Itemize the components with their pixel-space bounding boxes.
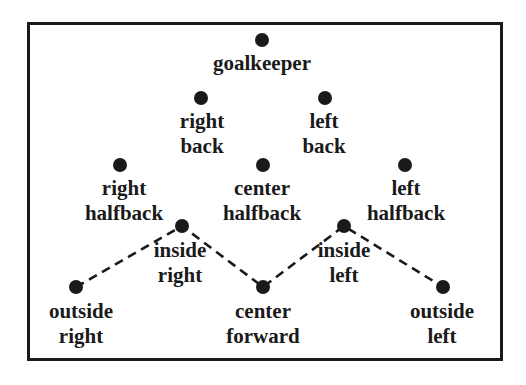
forward-line-dashed	[76, 226, 443, 287]
right-halfback-dot	[113, 158, 127, 172]
inside-right-dot	[175, 219, 189, 233]
outside-right-label: outsideright	[49, 299, 113, 349]
outside-left-label-line: outside	[410, 299, 474, 324]
outside-right-dot	[69, 280, 83, 294]
left-back-label-line: back	[302, 134, 345, 159]
right-halfback-label: righthalfback	[85, 176, 163, 226]
center-forward-label: centerforward	[226, 299, 299, 349]
center-halfback-dot	[256, 158, 270, 172]
soccer-formation-diagram: goalkeeperrightbackleftbackrighthalfback…	[0, 0, 526, 385]
outside-right-label-line: right	[49, 324, 113, 349]
right-back-label-line: right	[180, 109, 224, 134]
right-halfback-label-line: halfback	[85, 201, 163, 226]
center-halfback-label: centerhalfback	[223, 176, 301, 226]
goalkeeper-label: goalkeeper	[213, 51, 311, 76]
right-halfback-label-line: right	[85, 176, 163, 201]
left-halfback-label: lefthalfback	[367, 176, 445, 226]
left-back-label: leftback	[302, 109, 345, 159]
inside-left-label-line: inside	[318, 238, 371, 263]
center-halfback-label-line: halfback	[223, 201, 301, 226]
inside-left-label: insideleft	[318, 238, 371, 288]
outside-left-label: outsideleft	[410, 299, 474, 349]
inside-right-label-line: right	[154, 263, 207, 288]
inside-left-label-line: left	[318, 263, 371, 288]
left-back-label-line: left	[302, 109, 345, 134]
left-halfback-dot	[398, 158, 412, 172]
outside-left-dot	[436, 280, 450, 294]
right-back-label: rightback	[180, 109, 224, 159]
right-back-label-line: back	[180, 134, 224, 159]
center-forward-label-line: forward	[226, 324, 299, 349]
left-halfback-label-line: halfback	[367, 201, 445, 226]
left-back-dot	[318, 91, 332, 105]
left-halfback-label-line: left	[367, 176, 445, 201]
right-back-dot	[194, 91, 208, 105]
goalkeeper-dot	[255, 33, 269, 47]
outside-right-label-line: outside	[49, 299, 113, 324]
inside-right-label-line: inside	[154, 238, 207, 263]
center-halfback-label-line: center	[223, 176, 301, 201]
center-forward-label-line: center	[226, 299, 299, 324]
inside-left-dot	[337, 219, 351, 233]
center-forward-dot	[256, 280, 270, 294]
goalkeeper-label-line: goalkeeper	[213, 51, 311, 76]
outside-left-label-line: left	[410, 324, 474, 349]
inside-right-label: insideright	[154, 238, 207, 288]
